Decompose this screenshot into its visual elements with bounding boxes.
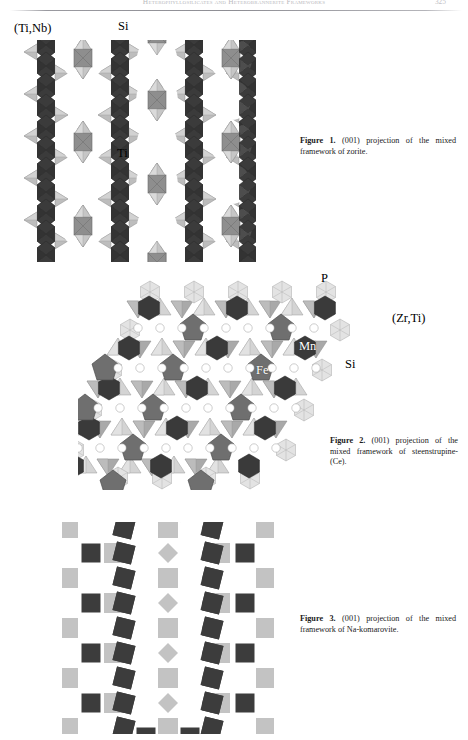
figure-3: Figure 3. (001) projection of the mixed … [0, 516, 468, 740]
figure-2-caption: Figure 2. (001) projection of the mixed … [330, 436, 458, 468]
running-head: Heterophyllosilicates and Heterobranneri… [0, 0, 468, 12]
figure-2-zr-ti-label: (Zr,Ti) [392, 312, 425, 325]
figure-1-ti-label: Ti [117, 147, 128, 160]
figure-2-fe-label: Fe [256, 364, 269, 377]
figure-3-caption-label: Figure 3. [300, 614, 336, 623]
figure-2-caption-label: Figure 2. [330, 436, 365, 445]
header-rule [10, 10, 462, 11]
figure-1-caption-label: Figure 1. [300, 136, 336, 145]
steenstrupine-framework-diagram [78, 278, 350, 490]
zorite-framework-diagram [8, 40, 256, 262]
figure-1-caption: Figure 1. (001) projection of the mixed … [300, 136, 456, 157]
na-komarovite-framework-diagram [62, 522, 274, 734]
running-head-title: Heterophyllosilicates and Heterobranneri… [84, 0, 384, 6]
figure-1: (Ti,Nb) Si Ti Figure 1. (001) projection… [0, 18, 468, 266]
figure-3-illustration [62, 522, 274, 734]
figure-1-si-label: Si [118, 20, 128, 33]
figure-2-illustration [78, 278, 350, 490]
figure-1-ti-nb-label: (Ti,Nb) [14, 22, 51, 35]
figure-3-caption: Figure 3. (001) projection of the mixed … [300, 614, 456, 635]
page-number: 325 [435, 0, 446, 6]
figure-2-mn-label: Mn [299, 340, 316, 353]
figure-1-illustration [8, 40, 256, 262]
figure-2-p-label: P [321, 272, 328, 285]
figure-2: P (Zr,Ti) Mn Fe Si Figure 2. (001) proje… [0, 262, 468, 510]
figure-2-si-label: Si [345, 358, 355, 371]
